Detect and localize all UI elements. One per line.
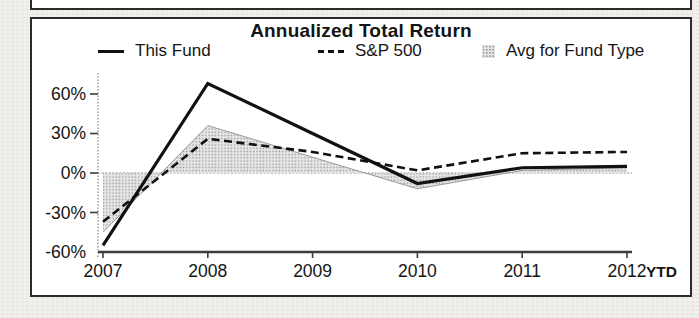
x-tick-label: 2012	[608, 261, 647, 281]
y-axis: 60%30%0%-30%-60%	[45, 73, 98, 262]
x-tick-label: 2008	[188, 261, 227, 281]
series-avg-fund-type-area	[103, 126, 627, 233]
x-axis: 200720082009201020112012YTD	[84, 252, 677, 281]
series-s-p-500	[103, 139, 627, 222]
upper-panel-fragment	[30, 0, 692, 10]
page: { "panel": { "title": "Annualized Total …	[0, 0, 699, 318]
y-tick-label: -30%	[45, 203, 86, 223]
x-tick-label: 2009	[293, 261, 332, 281]
x-tick-label: 2011	[503, 261, 541, 281]
y-tick-label: 60%	[51, 84, 86, 104]
y-tick-label: 30%	[51, 123, 86, 143]
chart-panel: Annualized Total Return This Fund S&P 50…	[30, 17, 692, 297]
annualized-return-chart: 60%30%0%-30%-60%200720082009201020112012…	[32, 19, 690, 295]
y-tick-label: 0%	[61, 163, 86, 183]
x-tick-label: 2007	[84, 261, 123, 281]
y-tick-label: -60%	[45, 242, 86, 262]
ytd-label: YTD	[646, 263, 677, 280]
x-tick-label: 2010	[398, 261, 437, 281]
